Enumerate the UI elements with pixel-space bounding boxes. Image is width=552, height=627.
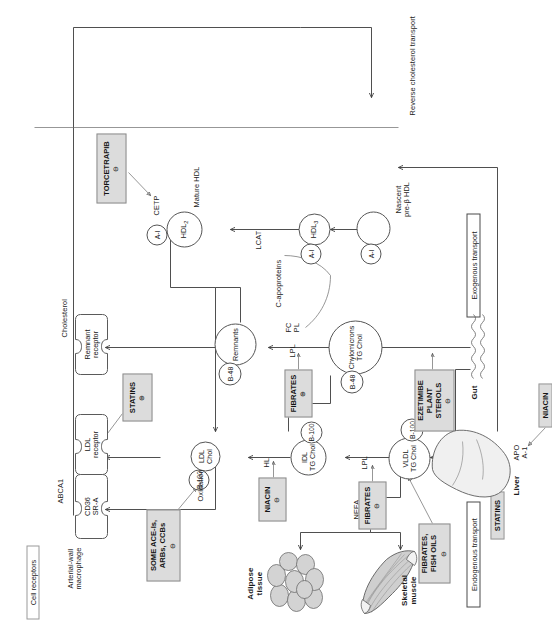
abca1-label: ABCA1 (56, 478, 64, 503)
apo-ai-hdl2: A-I (146, 224, 167, 245)
drug-fibrates-lpl-chylo-label: FIBRATES (289, 374, 298, 411)
liver-label: Liver (512, 475, 521, 495)
particle-vldl-label: VLDLTG Chol (401, 445, 417, 472)
particle-idl: IDLTG Chol (290, 439, 326, 475)
label-nascent-hdl: Nascent pre-β HDL (394, 171, 411, 227)
drug-niacin-hl-sign: ⊖ (272, 496, 281, 502)
drug-statins-ldl-receptor[interactable]: STATINS ⊕ (122, 373, 152, 421)
drug-fibrates-lpl-vldl-label: FIBRATES (363, 486, 372, 523)
gut-graphic (468, 307, 488, 379)
drug-statins-ldl-receptor-label: STATINS (128, 381, 137, 412)
drug-fibrates-lpl-chylo-sign: ⊕ (298, 390, 307, 396)
label-hl: HL (262, 457, 270, 467)
particle-idl-label: IDLTG Chol (300, 444, 316, 471)
drug-fibrates-fish-oils[interactable]: FIBRATES, FISH OILS ⊖ (418, 523, 450, 583)
particle-hdl3-label: HDL3 (309, 220, 318, 237)
drug-torcetrapib[interactable]: TORCETRAPIB ⊖ (96, 133, 126, 203)
label-oxidation: Oxidation (196, 469, 204, 501)
apo-b48-remnants: B-48 (218, 362, 241, 385)
label-apo-a1: APO A-1 (512, 441, 529, 463)
label-fc-pl: FC PL (284, 319, 301, 335)
drug-fibrates-lpl-chylo[interactable]: FIBRATES ⊕ (284, 369, 312, 417)
receptor-cd36-sra: CD36SR-A (74, 473, 108, 539)
particle-chylomicrons: ChylomicronsTG Chol (328, 320, 382, 374)
particle-ldl-label: LDLChol (197, 449, 213, 464)
drug-some-ace-arbs-ccbs-sign: ⊖ (168, 542, 177, 548)
drug-niacin-apo[interactable]: NIACIN (538, 383, 552, 427)
macrophage-label: Arterial-wall macrophage (66, 545, 83, 591)
apo-ai-hdl3: A-I (300, 243, 321, 264)
drug-niacin-hl-label: NIACIN (263, 486, 272, 512)
particle-hdl2: HDL2 (166, 211, 202, 247)
particle-remnants: Remnants (214, 323, 256, 365)
drug-niacin-apo-label: NIACIN (541, 392, 550, 418)
liver-graphic (430, 427, 512, 499)
label-lpl-vldl: LPL (360, 456, 368, 469)
receptor-ldl-label: LDLreceptor (83, 413, 100, 475)
particle-hdl3: HDL3 (298, 213, 330, 245)
drug-fibrates-lpl-vldl[interactable]: FIBRATES ⊖ (358, 481, 386, 529)
drug-statins-ldl-receptor-sign: ⊕ (137, 394, 146, 400)
particle-hdl2-label: HDL2 (179, 220, 188, 237)
drug-ezetimibe-plant-sterols[interactable]: EZETIMIBE PLANT STEROLS ⊖ (414, 369, 454, 431)
skeletal-muscle-label: Skeletal muscle (400, 561, 418, 619)
drug-torcetrapib-label: TORCETRAPIB (102, 141, 111, 196)
adipose-tissue-label: Adipose tissue (246, 551, 264, 615)
particle-vldl: VLDLTG Chol (388, 437, 430, 479)
drug-fibrates-fish-oils-sign: ⊖ (439, 550, 448, 556)
drug-fibrates-lpl-vldl-sign: ⊖ (372, 502, 381, 508)
adipose-tissue-graphic (266, 551, 326, 613)
particle-ldl: LDLChol (190, 441, 220, 471)
drug-ezetimibe-plant-sterols-sign: ⊖ (443, 397, 452, 403)
receptor-remnant: Remnantreceptor (74, 313, 108, 375)
receptor-remnant-label: Remnantreceptor (83, 313, 100, 375)
section-label-endogenous-transport: Endogenous transport (466, 501, 480, 607)
receptor-ldl: LDLreceptor (74, 413, 108, 475)
apo-ai-nascent: A-I (360, 243, 381, 264)
particle-remnants-label: Remnants (231, 328, 239, 361)
drug-some-ace-arbs-ccbs[interactable]: SOME ACE-Is, ARBs, CCBs ⊖ (146, 509, 180, 581)
apo-b100-idl: B-100 (300, 421, 322, 443)
apo-b48-chylo: B-48 (340, 370, 363, 393)
receptor-cd36-sra-label: CD36SR-A (83, 473, 100, 539)
label-lpl-chylo: LPL (288, 344, 296, 357)
drug-fibrates-fish-oils-label: FIBRATES, FISH OILS (420, 533, 438, 573)
drug-some-ace-arbs-ccbs-label: SOME ACE-Is, ARBs, CCBs (149, 519, 167, 570)
drug-niacin-hl[interactable]: NIACIN ⊖ (258, 477, 286, 521)
label-c-apoproteins: C-apoproteins (274, 259, 282, 307)
drug-torcetrapib-sign: ⊖ (111, 165, 120, 171)
drug-statins-liver-label: STATINS (493, 499, 502, 530)
label-lcat: LCAT (254, 230, 262, 249)
label-cholesterol: Cholesterol (60, 299, 68, 337)
gut-label: Gut (470, 385, 479, 399)
particle-chylomicrons-label: ChylomicronsTG Chol (347, 325, 363, 369)
label-mature-hdl: Mature HDL (192, 166, 200, 207)
label-cetp: CETP (152, 195, 160, 215)
particle-nascent-hdl (356, 211, 390, 245)
drug-ezetimibe-plant-sterols-label: EZETIMIBE PLANT STEROLS (416, 370, 443, 430)
section-label-exogenous-transport: Exogenous transport (466, 213, 480, 317)
